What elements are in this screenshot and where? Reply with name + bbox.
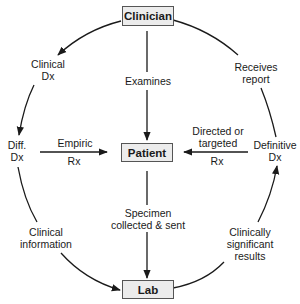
- patient-node: Patient: [121, 143, 173, 162]
- label-examines: Examines: [120, 75, 176, 87]
- label-rx-right: Rx: [205, 155, 229, 167]
- line-definitive-to-receives: [261, 88, 276, 137]
- label-clinical-dx: Clinical Dx: [24, 58, 72, 82]
- line-lab-to-significant: [173, 262, 224, 288]
- arrow-clinician-to-clinical-dx: [58, 21, 121, 55]
- label-clinically-significant: Clinically significant results: [222, 226, 278, 262]
- clinician-node: Clinician: [122, 6, 174, 26]
- label-definitive-dx: Definitive Dx: [250, 139, 300, 163]
- label-rx-left: Rx: [62, 155, 86, 167]
- arrow-significant-to-definitive-dx: [258, 166, 277, 222]
- label-empiric: Empiric: [50, 137, 100, 149]
- arrow-clinical-info-to-lab: [61, 253, 120, 290]
- lab-node: Lab: [122, 280, 174, 299]
- label-directed-targeted: Directed or targeted: [186, 125, 250, 149]
- label-specimen: Specimen collected & sent: [105, 207, 191, 231]
- arrow-clinical-dx-to-diff-dx: [19, 85, 34, 135]
- label-clinical-information: Clinical information: [14, 226, 78, 250]
- line-diff-dx-to-clinical-info: [18, 167, 37, 222]
- line-receives-to-clinician: [173, 20, 238, 55]
- label-diff-dx: Diff. Dx: [0, 139, 34, 163]
- label-receives-report: Receives report: [226, 61, 286, 85]
